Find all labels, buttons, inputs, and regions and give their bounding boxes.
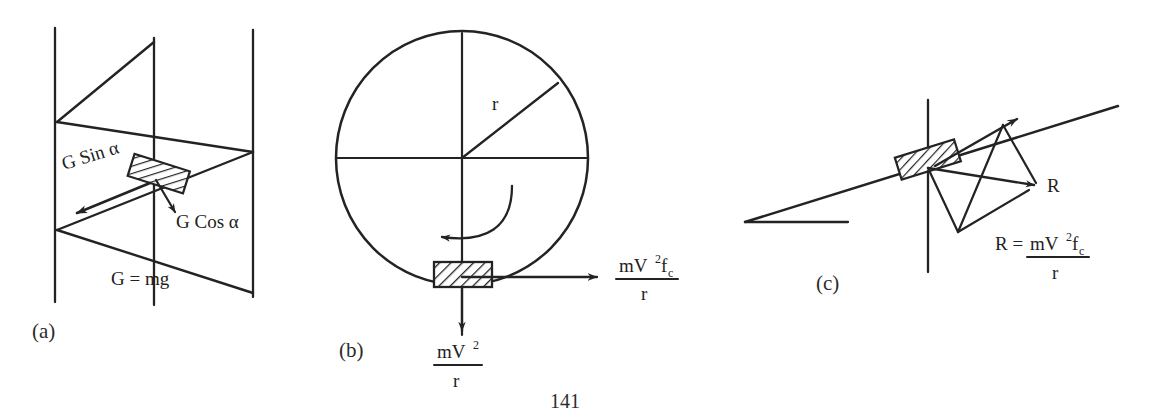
panel-b-group: r mV 2 f c r mV 2 r — [336, 31, 678, 391]
panel-b-rotation-arrow — [442, 186, 512, 238]
panel-b-hforce-numerator: mV — [619, 255, 648, 276]
panel-c-group: R R = mV 2 f c r (c) — [745, 100, 1118, 295]
page-number: 141 — [550, 390, 580, 412]
panel-a-caption: (a) — [32, 319, 55, 343]
panel-b-radius-line — [462, 83, 558, 158]
panel-b-caption: (b) — [339, 338, 364, 362]
panel-b-hforce-denominator: r — [641, 283, 648, 304]
panel-b-vertical-force-formula: mV 2 r — [434, 338, 482, 391]
panel-a-group: G Sin α G Cos α G = mg (a) — [32, 28, 253, 343]
panel-c-formula-friction-subscript: c — [1079, 244, 1084, 258]
panel-b-vforce-denominator: r — [453, 370, 460, 391]
panel-b-block — [434, 262, 492, 287]
panel-b-vforce-numerator-exponent: 2 — [473, 338, 479, 352]
figure-container: G Sin α G Cos α G = mg (a) r — [0, 0, 1158, 418]
physics-figure-svg: G Sin α G Cos α G = mg (a) r — [0, 0, 1158, 418]
panel-b-vforce-numerator: mV — [437, 341, 466, 362]
panel-c-formula-friction-var: f — [1072, 233, 1079, 254]
panel-b-label-radius: r — [492, 93, 499, 114]
panel-a-incline-upper — [57, 42, 154, 122]
panel-a-label-g-cos-alpha: G Cos α — [176, 211, 239, 232]
panel-a-label-weight: G = mg — [111, 268, 170, 289]
panel-c-label-resultant: R — [1047, 175, 1060, 196]
panel-b-hforce-friction-subscript: c — [668, 266, 673, 280]
panel-c-parallelogram-side-bottom — [958, 190, 1029, 232]
panel-c-formula-numerator: mV — [1030, 233, 1059, 254]
panel-c-resultant-formula: R = mV 2 f c r — [995, 230, 1089, 283]
panel-c-parallelogram-side-left — [928, 168, 958, 232]
panel-c-formula-lhs: R = — [995, 233, 1023, 254]
panel-c-formula-denominator: r — [1052, 262, 1059, 283]
panel-c-caption: (c) — [816, 271, 839, 295]
panel-a-label-g-sin-alpha: G Sin α — [59, 137, 121, 174]
panel-b-horizontal-force-formula: mV 2 f c r — [616, 252, 678, 304]
panel-b-hforce-friction-var: f — [661, 255, 668, 276]
